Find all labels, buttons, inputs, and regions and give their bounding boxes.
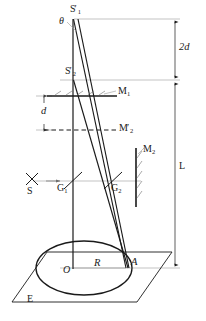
mirror-M2-hatch: [137, 181, 142, 188]
label-point-A: A: [131, 257, 137, 268]
mirror-M2-hatch: [137, 171, 142, 178]
construction-lines: [33, 19, 180, 268]
label-mirror-2-virtual: M′2: [119, 123, 133, 133]
mirror-M1-hatch: [77, 91, 83, 95]
label-dimension-L: L: [179, 161, 185, 171]
diagram-canvas: [0, 0, 206, 321]
label-mirror-1: M1: [118, 86, 130, 96]
label-theta: θ: [59, 16, 64, 26]
mirror-M2-hatch: [137, 161, 142, 168]
label-beamsplitter-2: G2: [111, 183, 121, 193]
label-dimension-2d: 2d: [179, 42, 190, 53]
mirror-M1-hatch: [99, 91, 105, 95]
label-mirror-2: M2: [143, 144, 155, 154]
label-source-virtual-2: S′2: [65, 66, 76, 76]
source-S-marker: [26, 173, 38, 185]
label-center-O: O: [63, 265, 70, 275]
mirror-M1-hatch: [55, 91, 61, 95]
label-radius-R: R: [94, 258, 100, 269]
optics-ray-diagram-figure: S′1 θ S′2 M1 M′2 M2 S G1 G2 2d d L O R A…: [0, 0, 206, 321]
m1-leader-line: [104, 91, 116, 94]
ray-outer-s1-to-A: [74, 19, 127, 268]
label-dimension-d: d: [41, 106, 46, 117]
label-beamsplitter-1: G1: [57, 183, 67, 193]
label-plane-E: E: [27, 294, 33, 304]
ray-bundle: [74, 19, 130, 268]
mirror-M2-hatch: [137, 191, 142, 198]
mirror-M2-hatch: [137, 151, 142, 158]
label-source-S: S: [27, 186, 33, 196]
ray-inner-s1-to-A: [78, 19, 129, 268]
label-source-virtual-1: S′1: [70, 4, 81, 14]
mirror-M2: [136, 148, 142, 207]
mirror-M1-hatch: [66, 91, 72, 95]
